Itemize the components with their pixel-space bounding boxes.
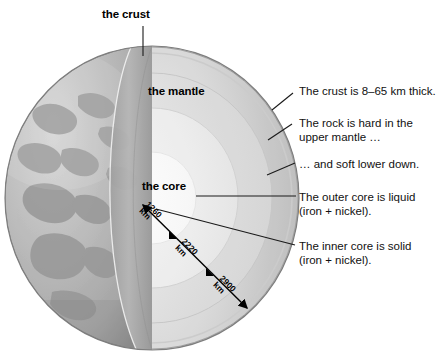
annotation-upper-mantle-line-1: The rock is hard in the [299, 116, 413, 130]
leader-crust-thickness [272, 93, 293, 110]
annotation-crust-thickness-line-1: The crust is 8–65 km thick. [299, 84, 436, 98]
annotation-outer-core-line-2: (iron + nickel). [299, 204, 415, 218]
annotation-upper-mantle: The rock is hard in the upper mantle … [299, 116, 413, 144]
annotation-upper-mantle-line-2: upper mantle … [299, 130, 413, 144]
annotation-outer-core-line-1: The outer core is liquid [299, 190, 415, 204]
label-the-core: the core [142, 180, 186, 192]
annotation-inner-core-line-2: (iron + nickel). [299, 253, 412, 267]
annotation-lower-mantle: … and soft lower down. [299, 157, 419, 171]
annotation-crust-thickness: The crust is 8–65 km thick. [299, 84, 436, 98]
label-the-crust: the crust [102, 8, 150, 20]
annotation-lower-mantle-line-1: … and soft lower down. [299, 157, 419, 171]
annotation-inner-core-line-1: The inner core is solid [299, 239, 412, 253]
label-the-mantle: the mantle [148, 85, 205, 97]
annotation-outer-core: The outer core is liquid (iron + nickel)… [299, 190, 415, 218]
annotation-inner-core: The inner core is solid (iron + nickel). [299, 239, 412, 267]
